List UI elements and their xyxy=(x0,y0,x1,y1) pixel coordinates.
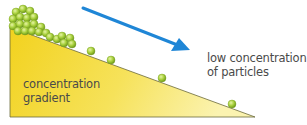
gradient-label-line-1: concentration xyxy=(23,77,100,91)
particle-icon xyxy=(46,33,54,41)
particle-icon xyxy=(28,27,36,35)
diffusion-arrow-icon xyxy=(83,8,190,51)
particle-icon xyxy=(158,74,166,82)
particle-icon xyxy=(21,27,29,35)
particle-icon xyxy=(35,28,43,36)
particle-icon xyxy=(14,27,22,35)
particle-icon xyxy=(68,40,76,48)
low-label-line-1: low concentration xyxy=(207,51,307,65)
concentration-gradient-label: concentration gradient xyxy=(23,77,100,105)
particle-icon xyxy=(16,20,24,28)
particle-icon xyxy=(30,20,38,28)
gradient-label-line-2: gradient xyxy=(23,91,100,105)
particle-icon xyxy=(30,13,38,21)
particle-icon xyxy=(58,32,66,40)
particle-icon xyxy=(87,47,95,55)
particle-icon xyxy=(23,14,31,22)
low-label-line-2: of particles xyxy=(207,65,307,79)
low-concentration-label: low concentration of particles xyxy=(207,51,307,79)
particle-icon xyxy=(107,56,115,64)
particle-icon xyxy=(228,100,236,108)
particle-icon xyxy=(19,5,27,13)
particle-icon xyxy=(16,13,24,21)
particle-icon xyxy=(9,15,17,23)
